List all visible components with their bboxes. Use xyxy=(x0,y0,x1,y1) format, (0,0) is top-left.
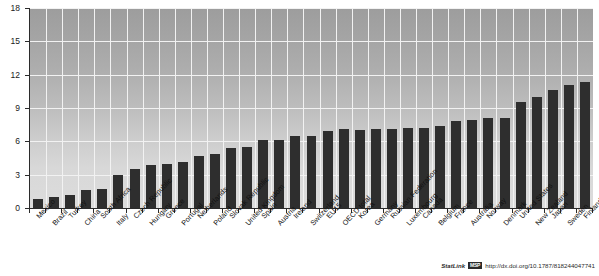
x-axis-tick-mark xyxy=(270,209,271,213)
x-axis-tick-mark xyxy=(254,209,255,213)
gridline-vertical xyxy=(448,8,449,208)
x-axis-tick-mark xyxy=(158,209,159,213)
gridline-vertical xyxy=(545,8,546,208)
x-axis-tick-mark xyxy=(367,209,368,213)
x-axis-tick-mark xyxy=(463,209,464,213)
gridline-vertical xyxy=(336,8,337,208)
gridline-horizontal xyxy=(30,75,593,76)
statlink-badge-icon: MSP xyxy=(468,262,482,269)
y-axis-tick-label: 12 xyxy=(11,70,20,79)
gridline-vertical xyxy=(191,8,192,208)
bar xyxy=(564,85,574,208)
x-axis-tick-mark xyxy=(142,209,143,213)
gridline-vertical xyxy=(368,8,369,208)
gridline-vertical xyxy=(271,8,272,208)
gridline-vertical xyxy=(175,8,176,208)
x-axis-tick-mark xyxy=(45,209,46,213)
bar xyxy=(33,199,43,208)
x-axis-tick-marks xyxy=(29,209,593,213)
bar xyxy=(146,165,156,208)
bar xyxy=(130,169,140,208)
bar xyxy=(387,129,397,208)
x-axis-tick-mark xyxy=(447,209,448,213)
x-axis-tick-mark xyxy=(61,209,62,213)
gridline-vertical xyxy=(287,8,288,208)
plot-area xyxy=(29,8,593,209)
y-axis-tick-label: 3 xyxy=(15,170,20,179)
x-axis-tick-mark xyxy=(93,209,94,213)
gridline-vertical xyxy=(529,8,530,208)
x-axis-tick-mark xyxy=(109,209,110,213)
gridline-horizontal xyxy=(30,8,593,9)
gridline-vertical xyxy=(46,8,47,208)
x-axis-tick-mark xyxy=(399,209,400,213)
x-axis-tick-mark xyxy=(528,209,529,213)
x-axis-tick-mark xyxy=(335,209,336,213)
bar xyxy=(500,118,510,208)
bar xyxy=(194,156,204,208)
x-axis-tick-mark xyxy=(576,209,577,213)
bar xyxy=(81,190,91,208)
gridline-vertical xyxy=(127,8,128,208)
x-axis-tick-label: Italy xyxy=(115,212,130,227)
statlink-url[interactable]: http://dx.doi.org/10.1787/818244047741 xyxy=(485,262,595,269)
x-axis-tick-mark xyxy=(415,209,416,213)
bar xyxy=(274,140,284,208)
gridline-horizontal xyxy=(30,41,593,42)
x-axis-tick-mark xyxy=(560,209,561,213)
gridline-vertical xyxy=(159,8,160,208)
x-axis-tick-mark xyxy=(383,209,384,213)
gridline-vertical xyxy=(303,8,304,208)
x-axis-tick-mark xyxy=(77,209,78,213)
x-axis-tick-mark xyxy=(126,209,127,213)
bar xyxy=(178,162,188,208)
gridline-vertical xyxy=(62,8,63,208)
x-axis-tick-mark xyxy=(495,209,496,213)
gridline-vertical xyxy=(400,8,401,208)
bar xyxy=(483,118,493,208)
bar xyxy=(355,130,365,208)
x-axis-tick-mark xyxy=(238,209,239,213)
y-axis-tick-label: 6 xyxy=(15,137,20,146)
y-axis-tick-label: 15 xyxy=(11,37,20,46)
gridline-vertical xyxy=(561,8,562,208)
bar xyxy=(532,97,542,208)
gridline-vertical xyxy=(384,8,385,208)
y-axis-labels: 0369121518 xyxy=(0,0,24,216)
x-axis-tick-mark xyxy=(190,209,191,213)
x-axis-tick-mark xyxy=(592,209,593,213)
gridline-vertical xyxy=(480,8,481,208)
bar xyxy=(516,102,526,208)
gridline-vertical xyxy=(464,8,465,208)
gridline-vertical xyxy=(352,8,353,208)
x-axis-tick-mark xyxy=(319,209,320,213)
gridline-vertical xyxy=(432,8,433,208)
bar xyxy=(403,128,413,208)
y-axis-tick-label: 0 xyxy=(15,204,20,213)
gridline-vertical xyxy=(207,8,208,208)
bar xyxy=(290,136,300,208)
bar xyxy=(258,140,268,208)
gridline-vertical xyxy=(577,8,578,208)
bar xyxy=(210,154,220,208)
gridline-vertical xyxy=(223,8,224,208)
gridline-vertical xyxy=(320,8,321,208)
bar xyxy=(49,197,59,208)
x-axis-tick-mark xyxy=(431,209,432,213)
gridline-vertical xyxy=(496,8,497,208)
bar xyxy=(226,148,236,208)
gridline-horizontal xyxy=(30,108,593,109)
x-axis-tick-mark xyxy=(479,209,480,213)
x-axis-tick-mark xyxy=(351,209,352,213)
gridline-vertical xyxy=(78,8,79,208)
y-axis-tick-label: 9 xyxy=(15,104,20,113)
bar xyxy=(97,189,107,208)
x-axis-tick-mark xyxy=(544,209,545,213)
bar xyxy=(307,136,317,208)
bar xyxy=(419,128,429,208)
figure-footer: StatLink MSP http://dx.doi.org/10.1787/8… xyxy=(0,262,599,276)
gridline-vertical xyxy=(110,8,111,208)
bar xyxy=(451,121,461,208)
bar xyxy=(548,90,558,208)
bar xyxy=(467,120,477,208)
